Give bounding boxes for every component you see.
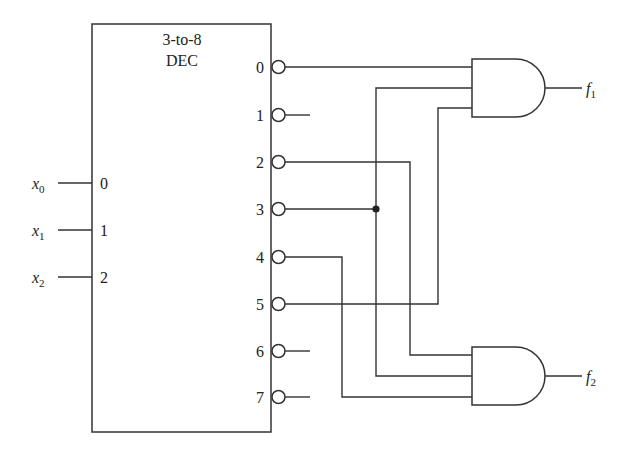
input-label-x0: x0 [31, 175, 45, 195]
inversion-bubble-4 [272, 251, 285, 264]
wire-out5-to-f1 [285, 108, 472, 304]
input-index-2: 2 [100, 269, 108, 286]
inversion-bubble-3 [272, 203, 285, 216]
output-index-1: 1 [256, 107, 264, 124]
wire-out2-to-f2 [285, 162, 472, 355]
output-label-f2: f2 [586, 368, 596, 388]
input-label-x2: x2 [31, 269, 45, 289]
inversion-bubble-5 [272, 298, 285, 311]
input-index-1: 1 [100, 222, 108, 239]
wire-out3-to-f1-f2 [376, 88, 472, 376]
and-gate-1-body [472, 59, 545, 117]
decoder-title-line1: 3-to-8 [162, 31, 201, 48]
output-index-3: 3 [256, 201, 264, 218]
output-index-6: 6 [256, 343, 264, 360]
junction-dot [372, 205, 379, 212]
output-label-f1: f1 [586, 80, 596, 100]
inversion-bubble-6 [272, 345, 285, 358]
output-index-7: 7 [256, 389, 264, 406]
decoder-title-line2: DEC [166, 52, 198, 69]
and-gate-2-body [472, 347, 545, 405]
input-index-0: 0 [100, 175, 108, 192]
inversion-bubble-2 [272, 156, 285, 169]
inversion-bubble-7 [272, 391, 285, 404]
inversion-bubble-0 [272, 61, 285, 74]
decoder-circuit-diagram: 3-to-8 DEC x0 0 x1 1 x2 2 0 1 2 3 4 5 6 … [0, 0, 628, 455]
inversion-bubble-1 [272, 109, 285, 122]
output-index-0: 0 [256, 59, 264, 76]
output-index-2: 2 [256, 154, 264, 171]
input-label-x1: x1 [31, 222, 45, 242]
and-gate-f1: f1 [472, 59, 596, 117]
decoder-block [92, 24, 271, 432]
output-index-5: 5 [256, 296, 264, 313]
and-gate-f2: f2 [472, 347, 596, 405]
output-index-4: 4 [256, 249, 264, 266]
